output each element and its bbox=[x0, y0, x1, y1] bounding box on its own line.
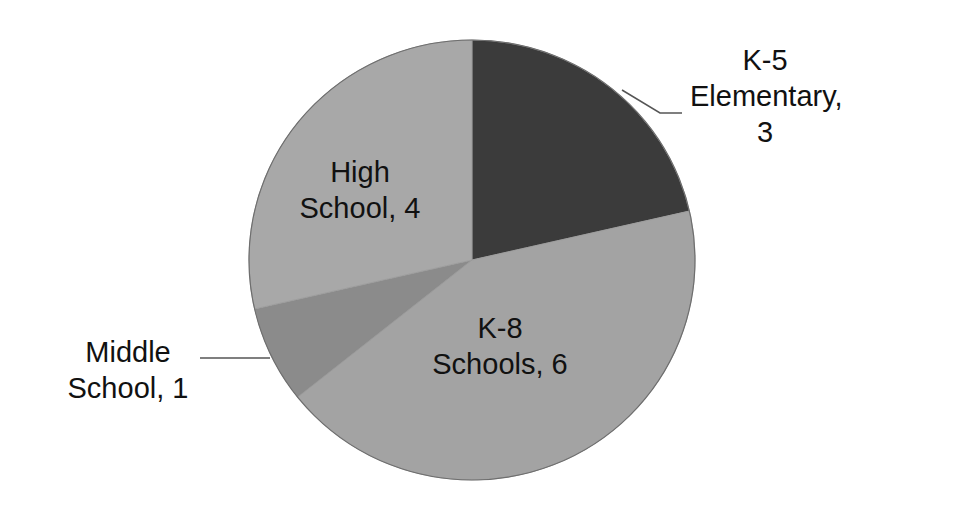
label-line: School, 1 bbox=[48, 370, 208, 406]
label-line: K-5 bbox=[690, 42, 840, 78]
label-line: 3 bbox=[690, 114, 840, 150]
label-line: School, 4 bbox=[265, 190, 455, 226]
label-line: High bbox=[265, 154, 455, 190]
label-k5-elementary: K-5 Elementary, 3 bbox=[690, 42, 840, 150]
label-line: K-8 bbox=[410, 310, 590, 346]
label-line: Elementary, bbox=[690, 78, 840, 114]
label-k8-schools: K-8 Schools, 6 bbox=[410, 310, 590, 382]
label-line: Schools, 6 bbox=[410, 346, 590, 382]
label-high-school: High School, 4 bbox=[265, 154, 455, 226]
label-line: Middle bbox=[48, 334, 208, 370]
pie-slices bbox=[249, 40, 695, 480]
label-middle-school: Middle School, 1 bbox=[48, 334, 208, 406]
